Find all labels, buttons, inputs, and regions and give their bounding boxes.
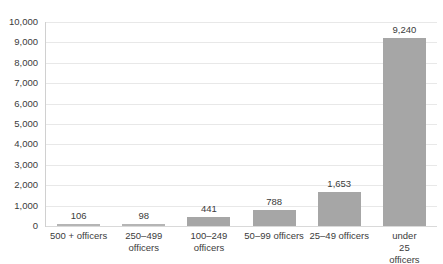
plot-area: 106984417881,6539,240 xyxy=(46,22,437,226)
bar-chart: 01,0002,0003,0004,0005,0006,0007,0008,00… xyxy=(0,0,443,264)
y-tick-label: 4,000 xyxy=(14,140,38,150)
bar[interactable] xyxy=(318,192,361,226)
bar-value-label: 788 xyxy=(266,197,282,207)
gridline xyxy=(46,22,437,23)
x-tick-label-line: officers xyxy=(190,242,227,254)
x-tick-label: 250–499officers xyxy=(125,230,162,254)
gridline xyxy=(46,185,437,186)
x-tick-label: 25–49 officers xyxy=(309,230,369,242)
gridline xyxy=(46,124,437,125)
x-tick-label-line: under 25 xyxy=(388,230,421,254)
bar[interactable] xyxy=(187,217,230,226)
gridline xyxy=(46,63,437,64)
x-tick-label-line: 50–99 officers xyxy=(244,230,304,242)
y-tick-label: 1,000 xyxy=(14,201,38,211)
bar[interactable] xyxy=(122,224,165,226)
y-tick-label: 3,000 xyxy=(14,160,38,170)
y-tick-label: 2,000 xyxy=(14,180,38,190)
y-tick-label: 0 xyxy=(33,221,38,231)
x-tick-label-line: 250–499 xyxy=(125,230,162,242)
x-tick-label-line: 500 + officers xyxy=(50,230,107,242)
y-axis: 01,0002,0003,0004,0005,0006,0007,0008,00… xyxy=(0,22,42,226)
bar[interactable] xyxy=(253,210,296,226)
bar[interactable] xyxy=(383,38,426,226)
chart-title xyxy=(0,0,443,2)
bar-value-label: 1,653 xyxy=(327,179,351,189)
y-tick-label: 9,000 xyxy=(14,38,38,48)
gridline xyxy=(46,165,437,166)
y-tick-label: 5,000 xyxy=(14,119,38,129)
bar-value-label: 98 xyxy=(138,211,149,221)
x-tick-label-line: officers xyxy=(125,242,162,254)
gridline xyxy=(46,144,437,145)
gridline xyxy=(46,206,437,207)
x-tick-label: under 25officers xyxy=(388,230,421,264)
gridline xyxy=(46,104,437,105)
x-axis: 500 + officers250–499officers100–249offi… xyxy=(46,230,437,264)
bar[interactable] xyxy=(57,224,100,226)
x-tick-label: 100–249officers xyxy=(190,230,227,254)
x-tick-label-line: officers xyxy=(388,254,421,264)
bar-value-label: 9,240 xyxy=(393,25,417,35)
y-tick-label: 10,000 xyxy=(9,17,38,27)
x-tick-label: 500 + officers xyxy=(50,230,107,242)
bar-value-label: 441 xyxy=(201,204,217,214)
x-tick-label-line: 100–249 xyxy=(190,230,227,242)
y-tick-label: 6,000 xyxy=(14,99,38,109)
y-tick-label: 8,000 xyxy=(14,58,38,68)
gridline xyxy=(46,83,437,84)
x-tick-label: 50–99 officers xyxy=(244,230,304,242)
gridline xyxy=(46,226,437,227)
gridline xyxy=(46,42,437,43)
y-tick-label: 7,000 xyxy=(14,78,38,88)
bar-value-label: 106 xyxy=(71,211,87,221)
x-tick-label-line: 25–49 officers xyxy=(309,230,369,242)
